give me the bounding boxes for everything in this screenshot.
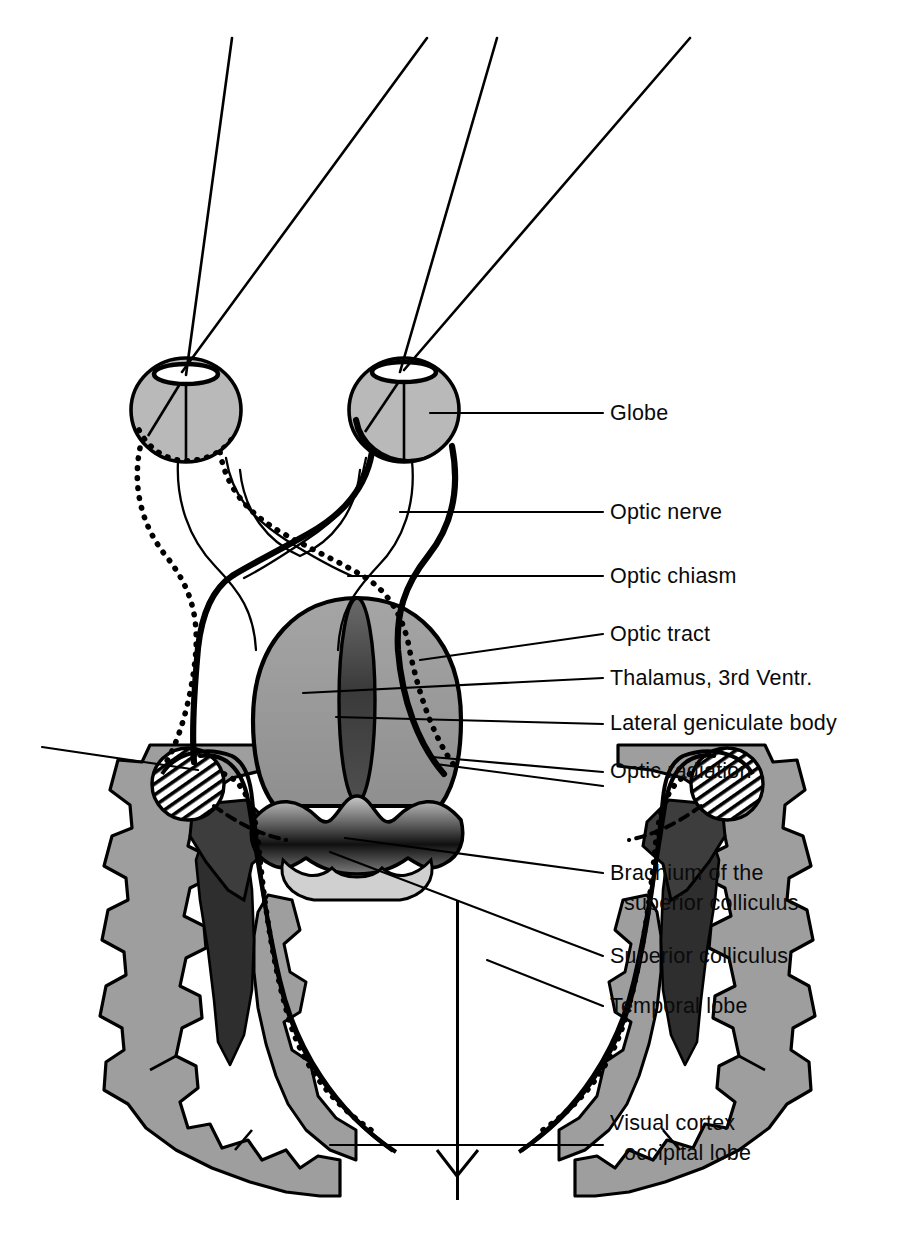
lateral-geniculate-body-left (152, 748, 224, 820)
label-brachium-line1: Brachium of the (610, 861, 764, 885)
third-ventricle (339, 598, 375, 802)
label-optic-radiation: Optic radiation (610, 759, 752, 783)
label-optic-chiasm-line1: Optic chiasm (610, 564, 737, 588)
leader-optic-tract (420, 634, 603, 660)
label-optic-chiasm: Optic chiasm (610, 564, 737, 588)
lens-right (372, 362, 436, 382)
visual-pathway-diagram: GlobeOptic nerveOptic chiasmOptic tractT… (0, 0, 915, 1250)
leader-temporal-lobe (487, 960, 603, 1006)
label-globe-line1: Globe (610, 401, 668, 425)
label-brachium-line2: superior colliculus (624, 891, 799, 915)
label-optic-radiation-line1: Optic radiation (610, 759, 752, 783)
label-temporal-lobe-line1: Temporal lobe (610, 994, 748, 1018)
ray-left-inner (182, 38, 427, 372)
label-optic-tract-line1: Optic tract (610, 622, 710, 646)
label-lateral-geniculate: Lateral geniculate body (610, 711, 837, 735)
label-temporal-lobe: Temporal lobe (610, 994, 748, 1018)
label-superior-colliculus-line1: Superior colliculus (610, 944, 788, 968)
ray-right-outer (400, 38, 497, 372)
label-thalamus-line1: Thalamus, 3rd Ventr. (610, 666, 812, 690)
label-optic-nerve: Optic nerve (610, 500, 722, 524)
label-globe: Globe (610, 401, 668, 425)
label-superior-colliculus: Superior colliculus (610, 944, 788, 968)
label-optic-tract: Optic tract (610, 622, 710, 646)
label-lateral-geniculate-line1: Lateral geniculate body (610, 711, 837, 735)
thalamus-group (253, 598, 461, 806)
optic-nerve-left-temporal-dotted (137, 448, 196, 766)
figure-canvas: GlobeOptic nerveOptic chiasmOptic tractT… (0, 0, 915, 1250)
label-visual-cortex-line1: Visual cortex (610, 1111, 735, 1135)
ray-right-inner (404, 38, 690, 370)
label-optic-nerve-line1: Optic nerve (610, 500, 722, 524)
visual-field-rays (182, 38, 690, 375)
leader-optic-radiation-second (436, 764, 603, 786)
label-thalamus: Thalamus, 3rd Ventr. (610, 666, 812, 690)
ray-left-outer (186, 38, 232, 375)
eyes-group (131, 358, 459, 466)
label-visual-cortex-line2: occipital lobe (624, 1141, 751, 1165)
